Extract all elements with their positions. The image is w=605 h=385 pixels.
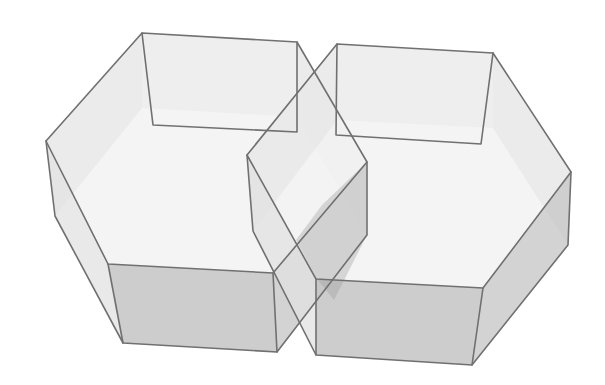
right-prism-side-face	[316, 279, 483, 365]
right-prism-side-face	[337, 44, 493, 128]
prism-faces	[46, 33, 571, 365]
left-prism-side-face	[108, 264, 277, 352]
hexagonal-prisms-diagram	[0, 0, 605, 385]
left-prism-side-face	[142, 33, 297, 117]
figure-canvas	[0, 0, 605, 385]
